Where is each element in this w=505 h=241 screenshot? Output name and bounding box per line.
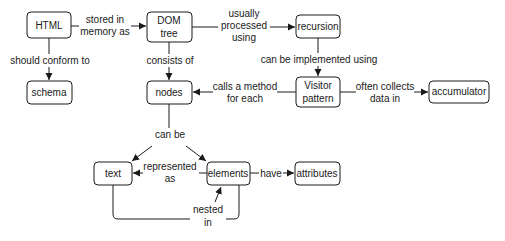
- concept-map-diagram: stored in memory as should conform to us…: [0, 0, 505, 241]
- edge-label-as: as: [165, 173, 176, 184]
- edge-label-in: in: [204, 217, 212, 228]
- node-schema: schema: [27, 81, 72, 104]
- edge-label-usually: usually: [228, 8, 259, 19]
- node-text: text: [94, 162, 132, 185]
- node-recursion: recursion: [296, 15, 340, 38]
- svg-text:Visitor: Visitor: [304, 80, 332, 91]
- edge-label-often-collects: often collects: [356, 81, 414, 92]
- svg-text:nodes: nodes: [155, 87, 182, 98]
- edge-label-should-conform-to: should conform to: [10, 55, 90, 66]
- edge-label-calls-a-method: calls a method: [213, 81, 277, 92]
- svg-text:schema: schema: [31, 87, 66, 98]
- edge-label-have: have: [260, 168, 282, 179]
- node-dom-tree: DOM tree: [147, 12, 192, 42]
- node-attributes: attributes: [295, 162, 340, 185]
- edge-recursion-visitor: can be implemented using: [261, 38, 378, 76]
- node-html: HTML: [27, 12, 71, 38]
- edge-label-can-be: can be: [155, 129, 185, 140]
- svg-text:recursion: recursion: [297, 21, 338, 32]
- svg-text:tree: tree: [160, 28, 178, 39]
- svg-text:DOM: DOM: [157, 15, 180, 26]
- edge-label-represented: represented: [143, 161, 196, 172]
- edge-label-can-be-implemented-using: can be implemented using: [261, 54, 378, 65]
- edge-text-nested-in-elements: nested in: [113, 185, 239, 231]
- svg-text:accumulator: accumulator: [432, 86, 487, 97]
- node-nodes: nodes: [147, 81, 192, 104]
- edge-label-memory-as: memory as: [80, 26, 129, 37]
- edge-visitor-accumulator: often collects data in: [340, 80, 428, 106]
- svg-text:pattern: pattern: [302, 93, 333, 104]
- edge-label-processed: processed: [221, 20, 267, 31]
- edge-elements-text: represented as: [133, 160, 207, 186]
- svg-text:attributes: attributes: [296, 168, 337, 179]
- edge-html-dom: stored in memory as: [71, 12, 146, 38]
- svg-text:text: text: [105, 168, 121, 179]
- edge-dom-nodes: consists of: [144, 42, 196, 80]
- edge-label-consists-of: consists of: [146, 55, 193, 66]
- node-elements: elements: [207, 162, 250, 185]
- svg-text:elements: elements: [208, 168, 249, 179]
- svg-text:HTML: HTML: [35, 20, 63, 31]
- edge-label-using: using: [232, 32, 256, 43]
- node-visitor-pattern: Visitor pattern: [296, 77, 340, 107]
- edge-label-for-each: for each: [227, 93, 263, 104]
- edge-label-nested: nested: [193, 204, 223, 215]
- edge-visitor-nodes: calls a method for each: [193, 80, 296, 106]
- edge-dom-recursion: usually processed using: [192, 8, 295, 44]
- node-accumulator: accumulator: [429, 81, 489, 103]
- edge-html-schema: should conform to: [10, 38, 90, 80]
- edge-elements-attributes: have: [250, 167, 294, 179]
- edge-label-data-in: data in: [370, 93, 400, 104]
- edge-label-stored-in: stored in: [86, 14, 124, 25]
- edge-nodes-can-be: can be: [132, 104, 206, 161]
